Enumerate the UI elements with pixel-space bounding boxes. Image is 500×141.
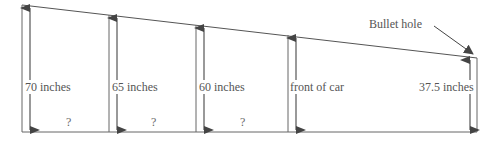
unknown-distance-3: ? — [240, 115, 245, 129]
height-label-1: 70 inches — [25, 80, 71, 94]
height-label-5: 37.5 inches — [419, 80, 474, 94]
unknown-distance-2: ? — [151, 115, 156, 129]
unknown-distance-1: ? — [66, 115, 71, 129]
height-label-2: 65 inches — [112, 80, 158, 94]
height-label-3: 60 inches — [199, 80, 245, 94]
trajectory-diagram: 70 inches 65 inches 60 inches front of c… — [0, 0, 500, 141]
bullet-hole-label: Bullet hole — [369, 17, 422, 31]
bullet-hole-pointer — [434, 26, 473, 54]
front-of-car-label: front of car — [290, 80, 344, 94]
trajectory-line — [22, 5, 477, 58]
